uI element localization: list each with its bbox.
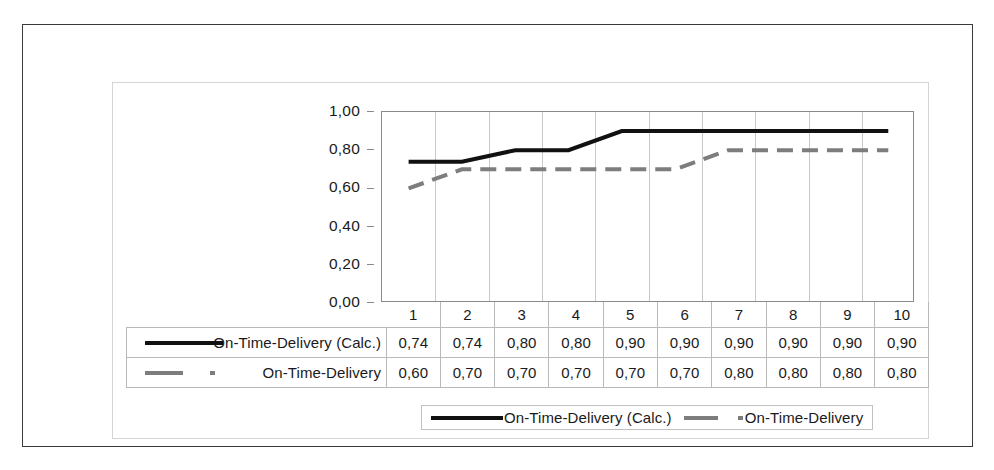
table-cell: 0,80	[712, 358, 766, 388]
series-label-cell: On-Time-Delivery (Calc.)	[127, 328, 387, 358]
table-cell: 0,70	[440, 358, 494, 388]
y-tick-mark	[367, 264, 374, 265]
table-cell: 0,90	[657, 328, 711, 358]
table-cell: 0,74	[440, 328, 494, 358]
table-cell: 0,90	[603, 328, 657, 358]
category-header: 3	[495, 302, 549, 328]
series-swatch-dashed-icon	[145, 371, 215, 375]
category-header: 10	[875, 302, 929, 328]
y-tick-label: 0,60	[288, 179, 360, 195]
legend-swatch-solid-icon	[431, 416, 503, 420]
category-header: 9	[820, 302, 874, 328]
y-axis: 1,00 0,80 0,60 0,40 0,20 0,00	[288, 95, 360, 320]
series-label: On-Time-Delivery	[262, 364, 381, 381]
category-header: 2	[440, 302, 494, 328]
y-tick-mark	[367, 188, 374, 189]
legend-entry-actual: On-Time-Delivery	[672, 409, 864, 426]
y-tick-label: 0,40	[288, 218, 360, 234]
table-cell: 0,70	[549, 358, 603, 388]
table-row-categories: 1 2 3 4 5 6 7 8 9 10	[127, 302, 929, 328]
category-header: 1	[387, 302, 441, 328]
y-tick-label: 0,80	[288, 141, 360, 157]
legend-label: On-Time-Delivery	[745, 409, 864, 426]
table-cell: 0,80	[495, 328, 549, 358]
category-row-spacer	[127, 302, 387, 328]
chart-data-table: 1 2 3 4 5 6 7 8 9 10 On-Time-Delivery (C…	[126, 302, 929, 388]
table-cell: 0,70	[603, 358, 657, 388]
legend-swatch-dashed-icon	[684, 416, 718, 420]
series-line-on-time-delivery-calc	[409, 131, 889, 162]
y-tick-mark	[367, 226, 374, 227]
plot-area	[381, 111, 914, 302]
series-swatch-solid-icon	[145, 341, 223, 345]
table-cell: 0,90	[820, 328, 874, 358]
category-header: 4	[549, 302, 603, 328]
y-tick-label: 0,20	[288, 256, 360, 272]
category-header: 5	[603, 302, 657, 328]
table-cell: 0,90	[766, 328, 820, 358]
category-header: 6	[657, 302, 711, 328]
table-cell: 0,74	[387, 328, 441, 358]
series-plot	[382, 112, 915, 303]
category-header: 8	[766, 302, 820, 328]
table-cell: 0,80	[875, 358, 929, 388]
table-cell: 0,80	[820, 358, 874, 388]
y-tick-mark	[367, 111, 374, 112]
table-cell: 0,90	[712, 328, 766, 358]
table-cell: 0,80	[549, 328, 603, 358]
series-label-cell: On-Time-Delivery	[127, 358, 387, 388]
legend-label: On-Time-Delivery (Calc.)	[504, 409, 672, 426]
chart-legend: On-Time-Delivery (Calc.) On-Time-Deliver…	[421, 405, 873, 430]
y-tick-mark	[367, 149, 374, 150]
legend-entry-calc: On-Time-Delivery (Calc.)	[431, 409, 672, 426]
table-cell: 0,70	[495, 358, 549, 388]
category-header: 7	[712, 302, 766, 328]
legend-swatch-dot-icon	[738, 416, 743, 420]
page-frame: 1,00 0,80 0,60 0,40 0,20 0,00 1	[22, 24, 973, 447]
table-cell: 0,80	[766, 358, 820, 388]
y-tick-label: 1,00	[288, 103, 360, 119]
series-label: On-Time-Delivery (Calc.)	[213, 334, 381, 351]
table-row: On-Time-Delivery 0,60 0,70 0,70 0,70 0,7…	[127, 358, 929, 388]
table-row: On-Time-Delivery (Calc.) 0,74 0,74 0,80 …	[127, 328, 929, 358]
table-cell: 0,90	[875, 328, 929, 358]
table-cell: 0,60	[387, 358, 441, 388]
table-cell: 0,70	[657, 358, 711, 388]
